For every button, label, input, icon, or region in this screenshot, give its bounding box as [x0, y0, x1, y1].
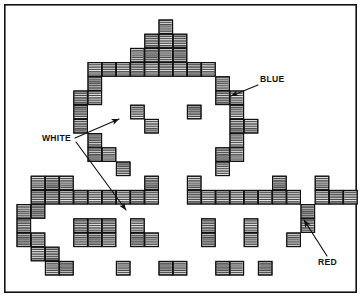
mosaic-block: [315, 190, 329, 204]
mosaic-block: [329, 190, 343, 204]
mosaic-block: [31, 247, 45, 261]
mosaic-block: [17, 205, 31, 219]
mosaic-block: [131, 105, 145, 119]
mosaic-block: [31, 190, 45, 204]
block-mosaic-diagram: BLUE WHITE RED: [0, 0, 361, 297]
mosaic-block: [244, 233, 258, 247]
mosaic-block: [31, 233, 45, 247]
mosaic-block: [202, 190, 216, 204]
mosaic-block: [145, 119, 159, 133]
mosaic-block: [173, 48, 187, 62]
callout-label-blue: BLUE: [260, 74, 284, 84]
mosaic-block: [145, 63, 159, 77]
mosaic-block: [159, 48, 173, 62]
mosaic-block: [31, 176, 45, 190]
mosaic-block: [301, 205, 315, 219]
mosaic-block: [88, 77, 102, 91]
mosaic-block: [88, 91, 102, 105]
mosaic-block: [88, 63, 102, 77]
mosaic-block: [131, 190, 145, 204]
mosaic-block: [159, 20, 173, 34]
mosaic-block: [131, 219, 145, 233]
mosaic-block: [60, 190, 74, 204]
mosaic-block: [88, 148, 102, 162]
mosaic-block: [187, 105, 201, 119]
mosaic-block: [74, 105, 88, 119]
mosaic-block: [344, 190, 358, 204]
mosaic-block: [216, 77, 230, 91]
mosaic-block: [131, 63, 145, 77]
mosaic-block: [159, 34, 173, 48]
mosaic-block: [116, 162, 130, 176]
mosaic-block: [102, 63, 116, 77]
mosaic-block: [45, 176, 59, 190]
mosaic-block: [74, 119, 88, 133]
callout-label-white: WHITE: [42, 133, 71, 143]
mosaic-block: [244, 219, 258, 233]
mosaic-block: [60, 261, 74, 275]
mosaic-block: [173, 261, 187, 275]
mosaic-block: [173, 63, 187, 77]
mosaic-block: [230, 119, 244, 133]
mosaic-block: [116, 261, 130, 275]
mosaic-block: [145, 233, 159, 247]
mosaic-block: [315, 176, 329, 190]
mosaic-block: [45, 247, 59, 261]
mosaic-block: [88, 219, 102, 233]
mosaic-block: [116, 190, 130, 204]
mosaic-block: [273, 190, 287, 204]
mosaic-block: [230, 105, 244, 119]
mosaic-block: [145, 176, 159, 190]
mosaic-block: [102, 148, 116, 162]
mosaic-block: [116, 63, 130, 77]
mosaic-block: [202, 219, 216, 233]
mosaic-block: [88, 190, 102, 204]
mosaic-block: [230, 134, 244, 148]
mosaic-block: [244, 190, 258, 204]
mosaic-block: [230, 190, 244, 204]
mosaic-block: [74, 219, 88, 233]
mosaic-block: [131, 48, 145, 62]
mosaic-block: [258, 261, 272, 275]
mosaic-block: [173, 34, 187, 48]
mosaic-block: [88, 233, 102, 247]
mosaic-block: [159, 261, 173, 275]
mosaic-block: [45, 190, 59, 204]
mosaic-block: [74, 91, 88, 105]
callout-label-red: RED: [318, 257, 337, 267]
mosaic-block: [102, 233, 116, 247]
mosaic-block: [145, 190, 159, 204]
figure-container: BLUE WHITE RED: [0, 0, 361, 297]
mosaic-block: [230, 148, 244, 162]
mosaic-block: [145, 48, 159, 62]
mosaic-block: [273, 176, 287, 190]
mosaic-block: [187, 190, 201, 204]
mosaic-block: [159, 63, 173, 77]
mosaic-block: [88, 134, 102, 148]
mosaic-block: [287, 233, 301, 247]
mosaic-block: [244, 119, 258, 133]
mosaic-block: [17, 233, 31, 247]
mosaic-block: [202, 63, 216, 77]
mosaic-block: [102, 219, 116, 233]
mosaic-block: [216, 261, 230, 275]
mosaic-block: [187, 176, 201, 190]
mosaic-block: [216, 148, 230, 162]
mosaic-block: [216, 162, 230, 176]
mosaic-block: [216, 190, 230, 204]
mosaic-block: [17, 219, 31, 233]
mosaic-block: [45, 261, 59, 275]
mosaic-block: [74, 233, 88, 247]
mosaic-block: [216, 91, 230, 105]
mosaic-block: [131, 233, 145, 247]
mosaic-block: [74, 190, 88, 204]
mosaic-block: [31, 205, 45, 219]
mosaic-block: [145, 34, 159, 48]
mosaic-block: [60, 176, 74, 190]
mosaic-block: [202, 233, 216, 247]
mosaic-block: [187, 63, 201, 77]
mosaic-block: [230, 261, 244, 275]
mosaic-block: [287, 190, 301, 204]
mosaic-block: [258, 190, 272, 204]
